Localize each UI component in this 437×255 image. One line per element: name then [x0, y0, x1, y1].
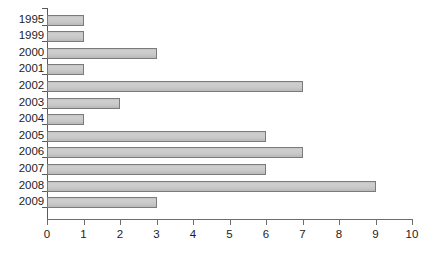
y-axis-label-2001: 2001: [0, 62, 44, 74]
x-axis-tick: [412, 220, 413, 225]
x-axis-tick: [157, 220, 158, 225]
y-axis-label-1999: 1999: [0, 29, 44, 41]
y-axis-label-2007: 2007: [0, 162, 44, 174]
x-axis-tick: [193, 220, 194, 225]
x-axis-tick: [376, 220, 377, 225]
x-axis-label-8: 8: [324, 228, 354, 240]
x-axis-label-2: 2: [105, 228, 135, 240]
bar-2005: [47, 131, 266, 142]
bar-2001: [47, 64, 84, 75]
x-axis-label-9: 9: [361, 228, 391, 240]
y-axis-label-2000: 2000: [0, 46, 44, 58]
x-axis-label-5: 5: [215, 228, 245, 240]
x-axis-label-1: 1: [69, 228, 99, 240]
bar-2009: [47, 197, 157, 208]
bar-2003: [47, 98, 120, 109]
x-axis-tick: [303, 220, 304, 225]
y-axis-label-2005: 2005: [0, 129, 44, 141]
x-axis-tick: [47, 220, 48, 225]
bar-2000: [47, 48, 157, 59]
bar-2007: [47, 164, 266, 175]
bar-2008: [47, 181, 376, 192]
x-axis-tick: [120, 220, 121, 225]
y-axis-label-2003: 2003: [0, 96, 44, 108]
x-axis-tick: [84, 220, 85, 225]
y-axis-label-2006: 2006: [0, 145, 44, 157]
x-axis-label-3: 3: [142, 228, 172, 240]
x-axis-label-7: 7: [288, 228, 318, 240]
bar-2004: [47, 114, 84, 125]
x-axis-label-6: 6: [251, 228, 281, 240]
x-axis-label-4: 4: [178, 228, 208, 240]
plot-area: 1995199920002001200220032004200520062007…: [0, 0, 437, 255]
x-axis-tick: [230, 220, 231, 225]
y-axis-label-2002: 2002: [0, 79, 44, 91]
y-axis-label-2004: 2004: [0, 112, 44, 124]
x-axis-tick: [266, 220, 267, 225]
x-axis-label-0: 0: [32, 228, 62, 240]
bar-2002: [47, 81, 303, 92]
x-axis-tick: [339, 220, 340, 225]
bar-2006: [47, 147, 303, 158]
y-axis-tick: [42, 8, 47, 9]
y-axis-label-1995: 1995: [0, 13, 44, 25]
bar-chart: 1995199920002001200220032004200520062007…: [0, 0, 437, 255]
bar-1995: [47, 15, 84, 26]
y-axis-label-2008: 2008: [0, 179, 44, 191]
bar-1999: [47, 31, 84, 42]
y-axis-label-2009: 2009: [0, 195, 44, 207]
x-axis-label-10: 10: [397, 228, 427, 240]
